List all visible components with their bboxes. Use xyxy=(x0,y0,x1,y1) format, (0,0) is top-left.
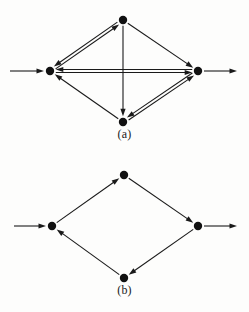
arrowhead-top-bottom-0 xyxy=(120,109,125,117)
vertex-a-top xyxy=(119,16,127,24)
edge-shaft-left-top-1 xyxy=(59,22,117,63)
edge-shaft-top-right-0 xyxy=(129,178,188,219)
arrowhead-exit-arrow xyxy=(230,223,238,228)
edge-bottom-left xyxy=(55,74,118,118)
vertex-a-bottom xyxy=(119,118,127,126)
figure-panel-a: (a) xyxy=(0,0,249,156)
arrowhead-bottom-left-0 xyxy=(55,74,63,80)
arrowhead-exit-arrow xyxy=(230,68,238,73)
edge-shaft-top-right-0 xyxy=(128,23,188,64)
edge-shaft-left-top-0 xyxy=(56,28,114,69)
vertex-b-right xyxy=(194,222,202,230)
arrowhead-top-right-0 xyxy=(186,61,194,67)
arrowhead-right-bottom-0 xyxy=(129,268,137,274)
figure-caption-b: (b) xyxy=(0,283,249,298)
external-entry-arrow xyxy=(14,223,46,228)
arrowhead-bottom-left-0 xyxy=(57,229,65,235)
vertex-b-bottom xyxy=(120,274,128,282)
edge-bottom-left xyxy=(57,229,120,274)
edge-top-bottom xyxy=(120,26,125,116)
edge-shaft-bottom-left-0 xyxy=(62,233,119,274)
arrowhead-entry-arrow xyxy=(39,223,47,228)
external-exit-arrow xyxy=(204,68,237,73)
edge-left-top xyxy=(54,22,119,69)
edge-top-right xyxy=(129,178,193,222)
arrowhead-entry-arrow xyxy=(37,68,45,73)
edge-shaft-bottom-left-0 xyxy=(60,78,118,119)
vertex-b-left xyxy=(48,222,56,230)
edge-shaft-right-bottom-0 xyxy=(134,229,193,271)
edge-shaft-bottom-right-1 xyxy=(132,73,192,114)
vertex-a-right xyxy=(194,67,202,75)
arrowhead-left-top-0 xyxy=(112,178,120,184)
external-exit-arrow xyxy=(204,223,237,228)
figure-panel-b: (b) xyxy=(0,156,249,312)
figure-caption-a: (a) xyxy=(0,127,249,142)
edge-top-right xyxy=(128,23,193,67)
edge-right-bottom xyxy=(129,229,194,274)
edge-shaft-left-top-0 xyxy=(57,182,114,223)
edge-shaft-bottom-right-0 xyxy=(129,79,189,120)
vertex-a-left xyxy=(46,67,54,75)
arrowhead-top-right-0 xyxy=(186,216,194,222)
external-entry-arrow xyxy=(10,68,44,73)
vertex-b-top xyxy=(120,171,128,179)
edge-bottom-right xyxy=(127,73,194,120)
edge-left-right xyxy=(56,67,192,75)
figure-sheet: (a) (b) xyxy=(0,0,249,312)
edge-left-top xyxy=(57,178,120,222)
